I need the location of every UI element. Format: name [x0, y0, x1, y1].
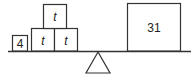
box-4: 4	[13, 36, 28, 52]
box-t-bottom-left: t	[32, 29, 55, 52]
box-31-label: 31	[147, 21, 161, 35]
box-t-bottom-right: t	[55, 29, 78, 52]
balance-diagram: 4 t t t 31	[0, 0, 194, 80]
box-31: 31	[128, 4, 181, 52]
box-t-top: t	[44, 5, 67, 29]
box-4-label: 4	[17, 37, 24, 51]
fulcrum-triangle	[86, 52, 110, 73]
